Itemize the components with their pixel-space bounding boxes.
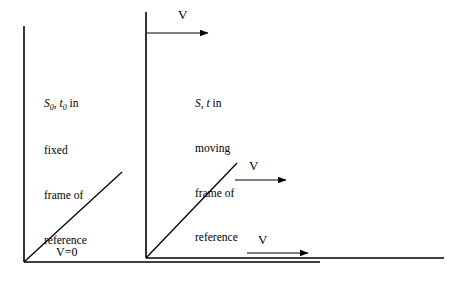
caption-in-word-2: in [210,97,222,109]
right-frame-axes [146,12,444,258]
velocity-label-bottom: V [258,232,268,249]
moving-frame-caption-line-3: frame of [195,186,238,201]
velocity-label-top: V [178,7,188,24]
fixed-frame-caption-line-2: fixed [44,143,87,158]
fixed-frame-caption-line-1: S0, t0 in [44,96,87,114]
moving-frame-caption-line-2: moving [195,141,238,156]
moving-frame-caption-line-1: S, t in [195,96,238,111]
moving-frame-caption: S, t in moving frame of reference [195,66,238,275]
caption-in-word-1: in [67,97,79,109]
velocity-label-zero: V=0 [56,245,77,261]
velocity-label-middle: V [249,158,259,175]
moving-frame-caption-line-4: reference [195,230,238,245]
fixed-frame-caption-line-3: frame of [44,188,87,203]
physics-reference-frames-diagram: S0, t0 in fixed frame of reference S, t … [0,0,461,284]
